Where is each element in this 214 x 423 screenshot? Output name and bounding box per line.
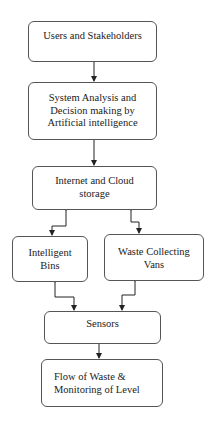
node-label-line: Bins (13, 260, 87, 273)
node-internet-cloud-storage: Internet and Cloud storage (32, 166, 157, 210)
arrow-vans-sensors (122, 281, 135, 310)
node-label-line: Waste Collecting (105, 246, 203, 259)
arrow-bins-sensors (55, 282, 74, 310)
node-sensors: Sensors (44, 311, 161, 344)
node-label-line: Intelligent (13, 247, 87, 260)
node-intelligent-bins: Intelligent Bins (12, 236, 88, 282)
node-users-stakeholders: Users and Stakeholders (28, 21, 157, 62)
node-label-line: Vans (105, 259, 203, 272)
node-label-line: Artificial intelligence (29, 117, 156, 130)
node-system-analysis-ai: System Analysis and Decision making by A… (28, 82, 157, 140)
arrow-cloud-vans (131, 210, 139, 233)
node-label-line: Monitoring of Level (54, 384, 162, 397)
node-label: Users and Stakeholders (29, 30, 156, 43)
node-waste-collecting-vans: Waste Collecting Vans (104, 234, 204, 281)
node-label-line: Flow of Waste & (54, 371, 162, 384)
node-label-line: Decision making by (29, 105, 156, 118)
node-label-line: Internet and Cloud (33, 175, 156, 188)
node-label-line: storage (33, 188, 156, 201)
node-flow-of-waste: Flow of Waste & Monitoring of Level (41, 359, 163, 407)
node-label: Sensors (45, 318, 160, 331)
node-label-line: System Analysis and (29, 92, 156, 105)
arrow-cloud-bins (52, 210, 66, 235)
